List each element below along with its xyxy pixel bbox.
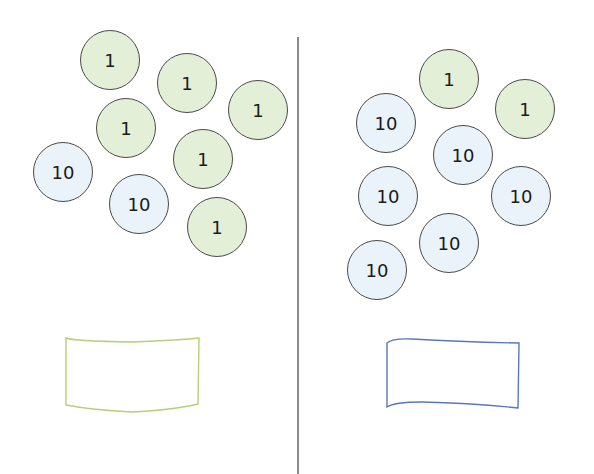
left-answer-box[interactable]: [62, 334, 204, 414]
one-disc: 1: [157, 53, 217, 113]
ten-disc: 10: [491, 166, 551, 226]
ten-disc: 10: [109, 174, 169, 234]
one-disc: 1: [187, 197, 247, 257]
ten-disc: 10: [356, 93, 416, 153]
one-disc: 1: [228, 80, 288, 140]
ten-disc: 10: [433, 125, 493, 185]
ten-disc: 10: [419, 213, 479, 273]
one-disc: 1: [495, 79, 555, 139]
ten-disc: 10: [347, 240, 407, 300]
right-answer-box[interactable]: [382, 334, 524, 414]
one-disc: 1: [419, 49, 479, 109]
ten-disc: 10: [358, 166, 418, 226]
cropped-title: [225, 0, 375, 3]
one-disc: 1: [80, 30, 140, 90]
place-value-disc-diagram: 1111110101 11101010101010: [0, 0, 594, 474]
left-answer-box-outline: [62, 334, 204, 414]
one-disc: 1: [96, 98, 156, 158]
panel-divider: [297, 37, 299, 474]
right-answer-box-outline: [382, 334, 524, 414]
one-disc: 1: [173, 129, 233, 189]
ten-disc: 10: [33, 142, 93, 202]
